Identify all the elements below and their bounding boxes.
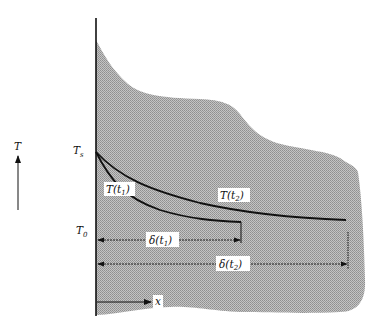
x-axis-label: x (155, 295, 161, 307)
delta-t1-label: δ(t1) (149, 234, 172, 248)
diagram-canvas: T Ts T0 T(t1) T(t2) δ(t1) δ(t2) x (0, 0, 383, 333)
curve-t2-label: T(t2) (220, 189, 244, 203)
initial-temperature-label: T0 (76, 224, 88, 239)
surface-temperature-label: Ts (73, 144, 84, 159)
curve-t1-label: T(t1) (106, 183, 130, 197)
shaded-medium-region (96, 40, 365, 315)
delta-t2-label: δ(t2) (219, 258, 242, 272)
temperature-axis-label: T (14, 140, 22, 152)
